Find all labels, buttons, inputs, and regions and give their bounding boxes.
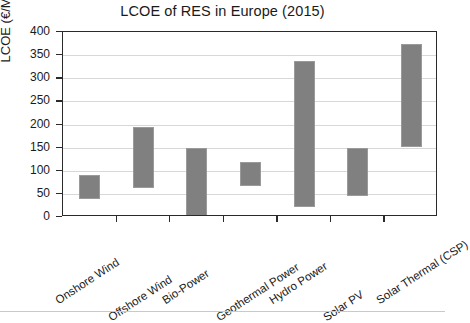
gridline	[63, 194, 436, 195]
chart-title: LCOE of RES in Europe (2015)	[0, 3, 445, 19]
y-tick-label: 50	[2, 187, 50, 199]
gridline	[63, 78, 436, 79]
bar-solar-pv	[347, 148, 368, 197]
x-tick-mark	[276, 216, 277, 222]
gridline	[63, 148, 436, 149]
plot-area	[62, 31, 437, 216]
x-tick-mark	[223, 216, 224, 222]
y-tick-mark	[56, 216, 62, 217]
x-tick-mark	[383, 216, 384, 222]
gridline	[63, 125, 436, 126]
y-tick-label: 350	[2, 48, 50, 60]
y-tick-label: 400	[2, 25, 50, 37]
gridline	[63, 55, 436, 56]
x-tick-mark	[169, 216, 170, 222]
y-tick-label: 250	[2, 94, 50, 106]
bar-onshore-wind	[79, 175, 100, 198]
y-axis-title: LCOE (€/MWh)	[0, 0, 13, 78]
y-tick-label: 150	[2, 141, 50, 153]
bar-hydro-power	[294, 61, 315, 207]
bar-bio-power	[186, 148, 207, 216]
y-tick-label: 0	[2, 210, 50, 222]
bottom-divider	[0, 311, 445, 312]
x-tick-mark	[330, 216, 331, 222]
bar-offshore-wind	[133, 127, 154, 188]
gridline	[63, 101, 436, 102]
x-tick-label: Onshore Wind	[53, 256, 121, 306]
x-tick-label: Solar PV	[321, 288, 366, 323]
y-tick-label: 100	[2, 164, 50, 176]
x-tick-mark	[116, 216, 117, 222]
bar-solar-thermal-csp	[401, 44, 422, 147]
x-tick-label: Solar Thermal (CSP)	[374, 238, 470, 306]
y-tick-label: 200	[2, 118, 50, 130]
bar-geothermal-power	[240, 162, 261, 186]
y-tick-label: 300	[2, 71, 50, 83]
